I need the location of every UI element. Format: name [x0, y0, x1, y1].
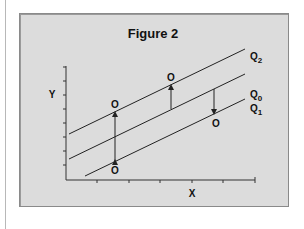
- line-q1: [85, 99, 245, 176]
- line-q0: [69, 74, 245, 159]
- x-axis-label: X: [189, 188, 196, 199]
- y-axis-label: Y: [49, 89, 56, 100]
- figure-diagram: Figure 2 Y X Q2 Q0 Q1: [0, 0, 304, 229]
- x-axis: [66, 177, 255, 183]
- label-q1: Q1: [250, 103, 263, 117]
- point-o-upper-left: O: [111, 99, 119, 110]
- figure-title: Figure 2: [128, 26, 179, 41]
- label-q0: Q0: [250, 89, 263, 103]
- label-q2: Q2: [250, 51, 263, 65]
- y-axis: [63, 66, 66, 180]
- point-o-lower-right: O: [212, 118, 220, 129]
- point-o-lower-left: O: [111, 165, 119, 176]
- point-o-upper-middle: O: [167, 72, 175, 83]
